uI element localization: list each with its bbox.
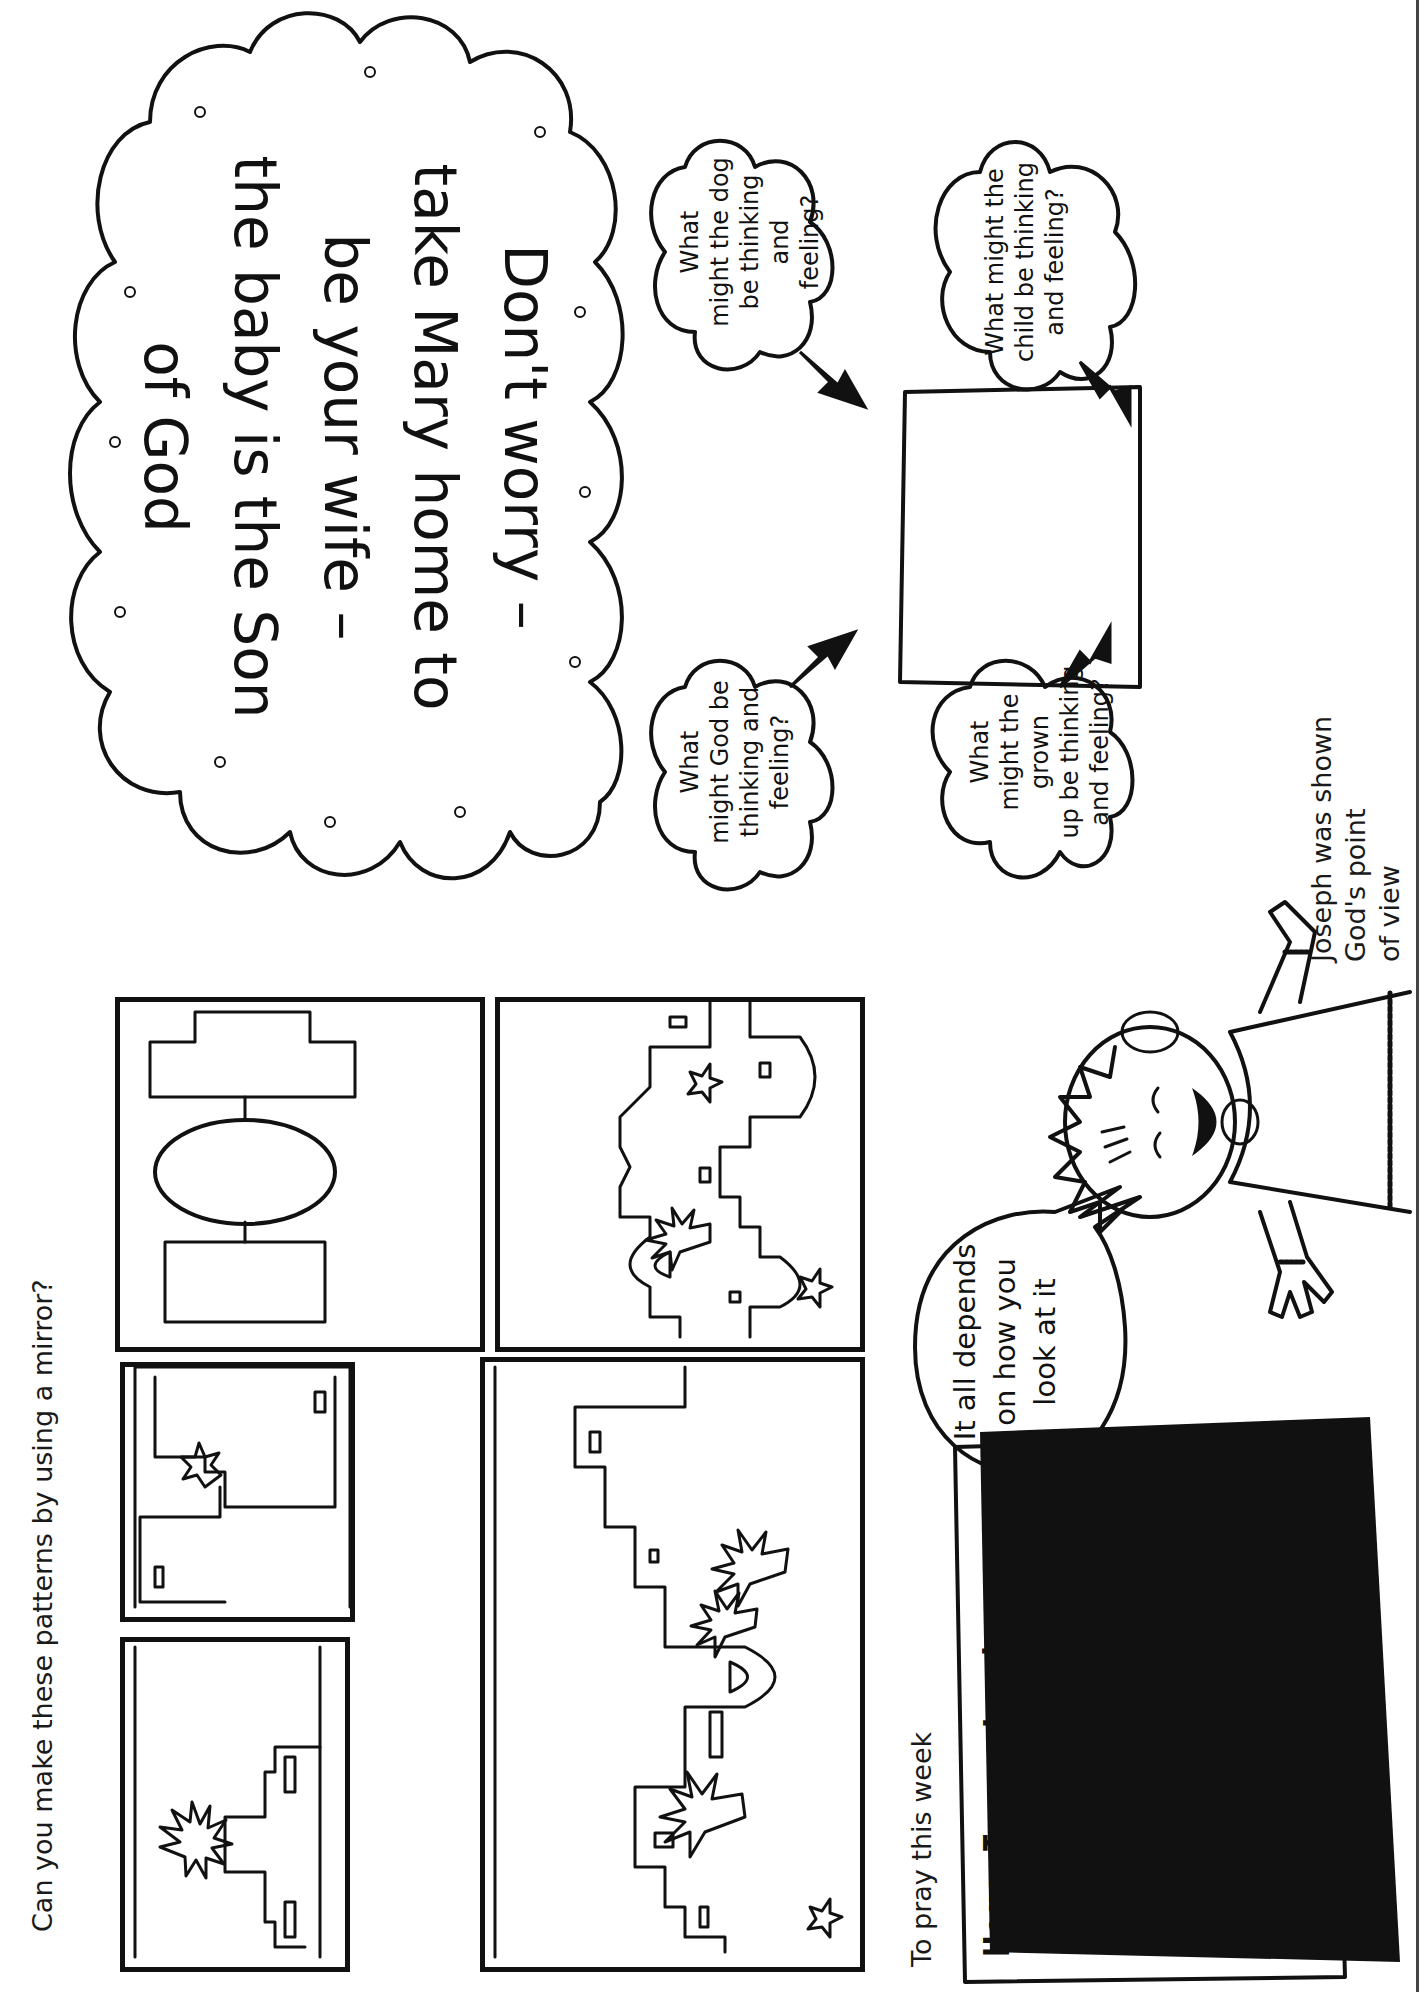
worksheet-page: Can you make these patterns by using a m… [0,0,1428,1992]
pattern-panel-2 [120,1362,355,1622]
mirror-message: Don't worry – take Mary home to be your … [120,42,560,832]
cloud-line: feeling? [765,672,795,852]
mirror-message-line: take Mary home to [390,42,480,832]
speech-line: It all depends [945,1222,985,1462]
cloud-child-question: What might the child be thinking and fee… [980,162,1070,362]
cloud-god-question: What might God be thinking and feeling? [675,672,795,852]
mirror-message-line: Don't worry – [480,42,570,832]
mirror-message-text: Don't worry – take Mary home to be your … [120,42,570,832]
skyline-palms-pattern-icon [485,1352,870,1967]
prayer-line: however you like. [1063,1437,1107,1957]
cloud-line: might God be [705,672,735,852]
palm-building-pattern-icon [125,1632,355,1967]
skyline-arches-stars-pattern-icon [500,992,870,1347]
cloud-line: thinking and [735,672,765,852]
mirror-message-line: be your wife – [300,42,390,832]
oval-rectangles-pattern-icon [120,992,490,1347]
cloud-line: What might the [980,162,1010,362]
stepped-buildings-star-pattern-icon [125,1357,360,1617]
cloud-line: might the dog [705,152,735,332]
cloud-line: up be thinking [1055,662,1085,842]
cloud-line: be thinking and [735,152,795,332]
mirror-message-line: of God [120,42,210,832]
prayer-heading: To pray this week [905,1732,939,1967]
cloud-line: might the grown [995,662,1055,842]
prayer-text: Here I am, Lord, ready to work with you … [975,1437,1195,1957]
cloud-dog-question: What might the dog be thinking and feeli… [675,152,825,332]
speech-line: on how you [985,1222,1025,1462]
cloud-line: and feeling? [1040,162,1070,362]
prayer-line: ready to work with you [1019,1437,1063,1957]
mirror-message-line: the baby is the Son [210,42,300,832]
pattern-panel-1 [120,1637,350,1972]
cloud-line: What [675,152,705,332]
prayer-line: I'll follow! –Amen– [1151,1437,1195,1957]
cloud-line: What [965,662,995,842]
cloud-line: and feeling? [1085,662,1115,842]
prayer-line: Lead on and [1107,1437,1151,1957]
pattern-panel-5 [495,997,865,1352]
cloud-grown-up-question: What might the grown up be thinking and … [965,662,1115,842]
pattern-panel-3 [115,997,485,1352]
cloud-line: child be thinking [1010,162,1040,362]
pattern-panel-4 [480,1357,865,1972]
prayer-line: Here I am, Lord, [975,1437,1019,1957]
cloud-line: What [675,672,705,852]
mirror-activity-heading: Can you make these patterns by using a m… [26,1279,60,1932]
cloud-line: feeling? [795,152,825,332]
